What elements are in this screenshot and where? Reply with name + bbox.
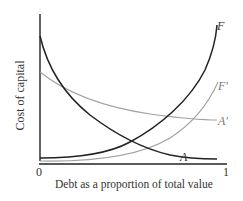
label-a-prime: A'	[218, 114, 228, 129]
curve-f-prime	[40, 82, 218, 161]
x-tick-0: 0	[36, 165, 42, 180]
curve-a-prime	[40, 72, 217, 120]
y-axis-label: Cost of capital	[13, 46, 28, 146]
x-axis-label: Debt as a proportion of total value	[55, 178, 213, 190]
label-f-prime: F'	[218, 79, 228, 94]
curve-a	[40, 36, 217, 159]
x-tick-1: 1	[223, 165, 229, 180]
label-a: A	[180, 150, 187, 165]
label-f: F	[217, 19, 224, 34]
